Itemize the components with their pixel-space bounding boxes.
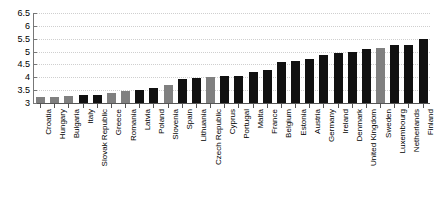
y-axis-tick-label: 5	[25, 47, 30, 56]
bar	[79, 95, 88, 103]
x-axis-tickmark	[121, 104, 130, 108]
x-axis-label-slot: Hungary	[50, 109, 59, 197]
y-axis-tick-labels: 33.544.555.566.5	[0, 13, 30, 103]
bar	[419, 39, 428, 103]
x-axis-label-slot: Germany	[319, 109, 328, 197]
x-axis-tickmark	[263, 104, 272, 108]
y-axis-tickmark	[33, 77, 37, 78]
x-axis-label-slot: Poland	[149, 109, 158, 197]
x-axis-tickmark	[220, 104, 229, 108]
x-axis-tickmark	[390, 104, 399, 108]
y-axis-tick-label: 5.5	[17, 34, 30, 43]
x-axis-tickmark	[277, 104, 286, 108]
x-axis-label-slot: Italy	[79, 109, 88, 197]
x-axis-tickmark	[192, 104, 201, 108]
bar	[376, 48, 385, 103]
y-axis-tick-label: 6.5	[17, 9, 30, 18]
y-axis-tick-label: 4	[25, 73, 30, 82]
y-axis-tick-label: 4.5	[17, 60, 30, 69]
x-axis-tickmark	[319, 104, 328, 108]
x-axis-label-slot: Slovak Republic	[93, 109, 102, 197]
bar	[390, 45, 399, 103]
x-axis-label-slot: Ireland	[334, 109, 343, 197]
bar	[319, 55, 328, 103]
bar	[164, 85, 173, 103]
bar	[348, 52, 357, 103]
bar	[220, 76, 229, 103]
x-axis-tickmark	[404, 104, 413, 108]
x-axis-label-slot: Lithuania	[192, 109, 201, 197]
x-axis-label-slot: United Kingdom	[362, 109, 371, 197]
bar	[305, 59, 314, 103]
bar	[249, 72, 258, 103]
x-axis-tickmarks	[34, 104, 430, 108]
x-axis-label-slot: Austria	[305, 109, 314, 197]
y-axis-tick-label: 3.5	[17, 86, 30, 95]
x-axis-tickmark	[135, 104, 144, 108]
y-axis-tickmark	[33, 52, 37, 53]
bar	[192, 78, 201, 103]
x-axis-label-slot: Denmark	[348, 109, 357, 197]
x-axis-tickmark	[234, 104, 243, 108]
x-axis-tickmark	[36, 104, 45, 108]
x-axis-tickmark	[164, 104, 173, 108]
x-axis-label-slot: Luxembourg	[390, 109, 399, 197]
x-axis-tickmark	[93, 104, 102, 108]
y-axis-tick-label: 3	[25, 99, 30, 108]
bar	[334, 53, 343, 103]
x-axis-label-slot: Bulgaria	[64, 109, 73, 197]
x-axis-tickmark	[149, 104, 158, 108]
x-axis-label-slot: Sweden	[376, 109, 385, 197]
bar	[277, 62, 286, 103]
bar	[362, 49, 371, 103]
x-axis-label-slot: France	[263, 109, 272, 197]
x-axis-label-slot: Cyprus	[220, 109, 229, 197]
y-axis-tickmark	[33, 64, 37, 65]
x-axis-tick-label: Finland	[427, 109, 435, 135]
bar	[121, 91, 130, 103]
x-axis-tickmark	[291, 104, 300, 108]
x-axis-tickmark	[178, 104, 187, 108]
plot-area	[34, 13, 430, 103]
bar	[149, 88, 158, 103]
y-axis-tickmark	[33, 39, 37, 40]
y-axis-tickmark	[33, 13, 37, 14]
x-axis-tickmark	[348, 104, 357, 108]
x-axis-label-slot: Finland	[419, 109, 428, 197]
bar	[234, 76, 243, 103]
bar	[263, 70, 272, 103]
bar	[291, 61, 300, 103]
x-axis-tickmark	[64, 104, 73, 108]
y-axis-tickmark	[33, 26, 37, 27]
bar	[178, 79, 187, 103]
x-axis-tickmark	[107, 104, 116, 108]
x-axis-label-slot: Czech Republic	[206, 109, 215, 197]
x-axis-label-slot: Spain	[178, 109, 187, 197]
bar	[64, 96, 73, 103]
y-axis-tickmark	[33, 103, 37, 104]
bar	[206, 77, 215, 103]
x-axis-tickmark	[305, 104, 314, 108]
y-axis-tickmark	[33, 90, 37, 91]
x-axis-tickmark	[249, 104, 258, 108]
x-axis-label-slot: Malta	[249, 109, 258, 197]
x-axis-label-slot: Latvia	[135, 109, 144, 197]
bar-series	[34, 13, 430, 103]
bar	[107, 93, 116, 103]
x-axis-tickmark	[334, 104, 343, 108]
bar	[135, 90, 144, 103]
x-axis-tick-labels: CroatiaHungaryBulgariaItalySlovak Republ…	[34, 109, 430, 197]
x-axis-label-slot: Estonia	[291, 109, 300, 197]
x-axis-label-slot: Belgium	[277, 109, 286, 197]
x-axis-label-slot: Netherlands	[404, 109, 413, 197]
x-axis-label-slot: Slovenia	[164, 109, 173, 197]
x-axis-label-slot: Portugal	[234, 109, 243, 197]
x-axis-tickmark	[79, 104, 88, 108]
y-axis-tick-label: 6	[25, 21, 30, 30]
x-axis-tickmark	[362, 104, 371, 108]
bar	[93, 95, 102, 103]
x-axis-tickmark	[206, 104, 215, 108]
x-axis-tickmark	[376, 104, 385, 108]
x-axis-label-slot: Romania	[121, 109, 130, 197]
